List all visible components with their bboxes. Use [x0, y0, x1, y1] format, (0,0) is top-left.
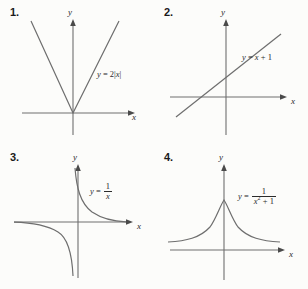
equation-constant: 1 [268, 52, 272, 62]
graph-hyperbola: x y [0, 145, 154, 289]
graph-bell-curve: x y [154, 145, 308, 289]
curve-linear [176, 34, 281, 117]
equation-label-4: y = 1 x2 + 1 [238, 187, 277, 208]
equation-abs-close: | [120, 69, 122, 79]
equation-lhs: y [238, 191, 242, 201]
denominator-constant: 1 [270, 196, 274, 206]
x-axis-arrow-icon [278, 247, 285, 253]
equation-variable: x [255, 52, 259, 62]
y-axis-arrow-icon [75, 164, 81, 171]
equation-plus: + [261, 52, 266, 62]
x-axis-arrow-icon [280, 94, 287, 100]
equation-label-1: y = 2|x| [97, 70, 121, 79]
graph-absolute-value: x y [0, 0, 154, 144]
equation-equals: = [96, 186, 101, 196]
x-axis-label: x [136, 221, 141, 231]
y-axis-label: y [67, 7, 72, 17]
fraction-denominator: x [104, 192, 112, 202]
y-axis-label: y [218, 152, 223, 162]
equation-label-2: y = x + 1 [242, 53, 272, 62]
equation-fraction: 1 x [104, 182, 112, 203]
y-axis-arrow-icon [223, 19, 229, 26]
panel-4: 4. x y y = 1 x2 + 1 [154, 145, 308, 289]
curve-absolute-value [31, 21, 119, 113]
denominator-plus: + [263, 196, 268, 206]
x-axis-label: x [288, 249, 293, 259]
y-axis-arrow-icon [70, 19, 76, 26]
equation-lhs: y [90, 186, 94, 196]
panel-2: 2. x y y = x + 1 [154, 0, 308, 144]
y-axis-arrow-icon [221, 164, 227, 171]
equation-fraction: 1 x2 + 1 [252, 187, 276, 208]
y-axis-label: y [72, 152, 77, 162]
equation-equals: = [244, 191, 249, 201]
denominator-exponent: 2 [258, 195, 261, 201]
curve-hyperbola-branch-2 [14, 222, 73, 276]
y-axis-label: y [220, 7, 225, 17]
panel-1: 1. x y y = 2|x| [0, 0, 154, 144]
x-axis-label: x [290, 96, 295, 106]
graph-exercise-sheet: 1. x y y = 2|x| 2. [0, 0, 308, 289]
equation-label-3: y = 1 x [90, 182, 113, 203]
equation-lhs: y [97, 69, 101, 79]
graph-linear: x y [154, 0, 308, 144]
fraction-denominator: x2 + 1 [252, 197, 276, 207]
panel-3: 3. x y y = 1 x [0, 145, 154, 289]
equation-equals: = [248, 52, 253, 62]
x-axis-arrow-icon [126, 219, 133, 225]
equation-equals: = [103, 69, 108, 79]
x-axis-label: x [131, 112, 136, 122]
equation-lhs: y [242, 52, 246, 62]
